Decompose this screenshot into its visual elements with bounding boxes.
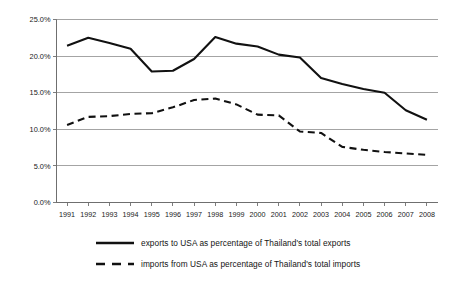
x-axis-tick-label: 2008 bbox=[419, 210, 435, 219]
x-axis-tick-label: 2005 bbox=[355, 210, 371, 219]
x-axis-tick-label: 2007 bbox=[398, 210, 414, 219]
x-axis-tick-label: 2006 bbox=[377, 210, 393, 219]
legend-swatch-solid-icon bbox=[96, 238, 134, 248]
y-axis-tick-label: 15.0% bbox=[30, 88, 51, 97]
x-axis-tick-label: 2003 bbox=[313, 210, 329, 219]
x-axis-tick-label: 2000 bbox=[250, 210, 266, 219]
y-axis-tick-label: 5.0% bbox=[34, 162, 51, 171]
x-axis-ticks-group: 1991199219931994199519961997199819992000… bbox=[59, 203, 435, 219]
y-axis-ticks-group: 0.0%5.0%10.0%15.0%20.0%25.0% bbox=[30, 15, 57, 207]
x-axis-tick-label: 1999 bbox=[228, 210, 244, 219]
y-axis-tick-label: 0.0% bbox=[34, 198, 51, 207]
x-axis-tick-label: 1996 bbox=[165, 210, 181, 219]
chart-legend: exports to USA as percentage of Thailand… bbox=[0, 232, 455, 274]
series-line-exports bbox=[67, 37, 427, 120]
y-axis-tick-label: 20.0% bbox=[30, 52, 51, 61]
legend-label-imports: imports from USA as percentage of Thaila… bbox=[141, 259, 360, 269]
legend-label-exports: exports to USA as percentage of Thailand… bbox=[141, 238, 350, 248]
y-axis-tick-label: 25.0% bbox=[30, 15, 51, 24]
x-axis-tick-label: 1998 bbox=[207, 210, 223, 219]
legend-entry-imports: imports from USA as percentage of Thaila… bbox=[0, 253, 455, 274]
x-axis-tick-label: 2002 bbox=[292, 210, 308, 219]
x-axis-tick-label: 1997 bbox=[186, 210, 202, 219]
x-axis-tick-label: 2001 bbox=[271, 210, 287, 219]
x-axis-tick-label: 1995 bbox=[144, 210, 160, 219]
legend-swatch-dashed-icon bbox=[96, 259, 134, 269]
x-axis-tick-label: 2004 bbox=[334, 210, 350, 219]
x-axis-tick-label: 1992 bbox=[80, 210, 96, 219]
series-line-imports bbox=[67, 99, 427, 155]
x-axis-tick-label: 1994 bbox=[123, 210, 139, 219]
x-axis-tick-label: 1993 bbox=[101, 210, 117, 219]
y-axis-tick-label: 10.0% bbox=[30, 125, 51, 134]
x-axis-tick-label: 1991 bbox=[59, 210, 75, 219]
chart-figure: 0.0%5.0%10.0%15.0%20.0%25.0% 19911992199… bbox=[0, 0, 455, 284]
legend-entry-exports: exports to USA as percentage of Thailand… bbox=[0, 232, 455, 253]
